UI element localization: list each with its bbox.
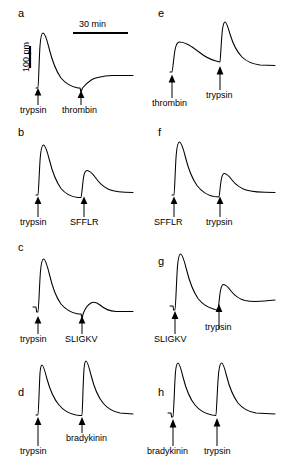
arrow-trypsin [214,418,221,427]
panel-g: g SLIGKV trypsin [142,234,284,351]
panel-b: b trypsin SFFLR [0,117,142,234]
agonist-label-first: bradykinin [147,447,188,456]
panel-c: c trypsin SLIGKV [0,234,142,351]
panel-e: e thrombin trypsin [142,0,284,117]
arrow-sfflr [171,197,178,205]
arrow-trypsin [35,88,42,96]
arrow-trypsin [217,197,224,205]
arrow-trypsin [217,66,224,75]
agonist-label-second: trypsin [206,91,233,100]
arrow-trypsin [216,304,223,312]
arrow-thrombin [169,75,176,83]
agonist-label-first: trypsin [20,106,47,115]
arrow-trypsin [35,417,42,425]
agonist-label-second: thrombin [62,106,97,115]
agonist-label-second: trypsin [204,447,231,456]
figure-panel-grid: a 100 pm 30 min trypsin thrombin b [0,0,284,469]
panel-h: h bradykinin trypsin [142,351,284,468]
panel-f: f SFFLR trypsin [142,117,284,234]
arrow-trypsin [35,197,42,205]
horizontal-scalebar-label: 30 min [79,20,106,29]
agonist-label-second: SLIGKV [65,335,98,344]
agonist-label-first: SFFLR [154,218,183,227]
arrow-bradykinin [79,417,86,425]
arrow-sligkv [172,311,179,319]
arrow-sfflr [81,197,88,205]
arrow-trypsin [35,316,42,324]
arrow-bradykinin [170,419,177,428]
agonist-label-second: trypsin [206,218,233,227]
panel-d: d trypsin bradykinin [0,351,142,468]
agonist-label-first: trypsin [20,335,47,344]
agonist-label-second: SFFLR [70,218,99,227]
agonist-label-first: trypsin [20,447,47,456]
arrow-thrombin [78,91,85,99]
agonist-label-second: bradykinin [66,434,107,443]
agonist-label-first: SLIGKV [154,335,187,344]
agonist-label-first: trypsin [20,218,47,227]
agonist-label-second: trypsin [205,323,232,332]
arrow-sligkv [79,316,86,324]
agonist-label-first: thrombin [152,99,187,108]
panel-a: a 100 pm 30 min trypsin thrombin [0,0,142,117]
vertical-scalebar-label: 100 pm [22,42,31,72]
